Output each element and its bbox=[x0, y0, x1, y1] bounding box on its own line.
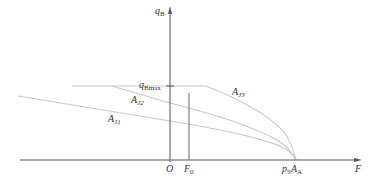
ps-aa-label: pSAA bbox=[282, 164, 302, 176]
axes-group bbox=[20, 12, 356, 162]
f0-label: F0 bbox=[184, 164, 194, 176]
curve-aj1 bbox=[18, 96, 296, 160]
q-bmax-label: qBmax bbox=[139, 80, 161, 92]
curve-aj1-label: AJ1 bbox=[108, 114, 121, 126]
curve-group bbox=[18, 86, 296, 160]
y-axis-label: qB bbox=[155, 6, 165, 18]
x-axis-arrow-icon bbox=[354, 158, 362, 162]
diagram-canvas bbox=[0, 0, 377, 182]
y-axis-arrow-icon bbox=[168, 6, 172, 14]
curve-aj3-label: AJ3 bbox=[232, 87, 245, 99]
x-axis-label: F bbox=[355, 164, 361, 174]
curve-aj2-label: AJ2 bbox=[131, 95, 144, 107]
origin-label: O bbox=[166, 164, 173, 174]
